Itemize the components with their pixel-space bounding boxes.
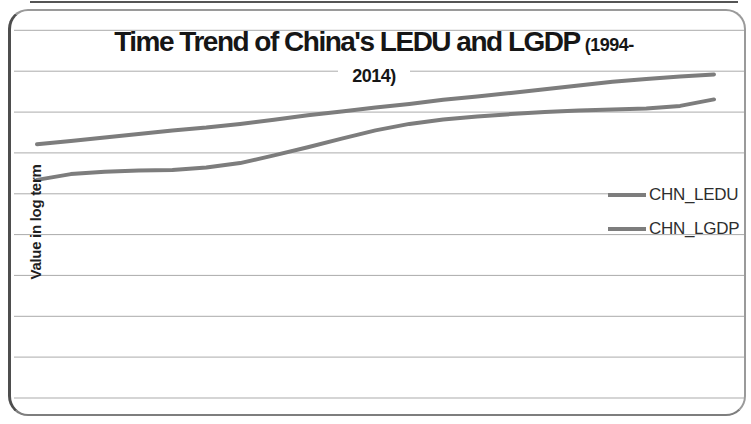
title-line-1: Time Trend of China's LEDU and LGDP(1994… — [13, 25, 735, 63]
y-axis-label: Value in log term — [27, 147, 47, 297]
title-line-2: 2014) — [13, 64, 735, 89]
legend-item-label: CHN_LEDU — [649, 185, 738, 205]
legend-item-chn-lgdp: CHN_LGDP — [608, 219, 748, 239]
legend-line-icon — [608, 227, 646, 231]
title-year-range-open: (1994- — [585, 35, 634, 55]
legend-item-label: CHN_LGDP — [649, 219, 739, 239]
figure-root: Time Trend of China's LEDU and LGDP(1994… — [0, 0, 751, 424]
chart-title: Time Trend of China's LEDU and LGDP(1994… — [13, 25, 735, 89]
legend-line-icon — [608, 193, 646, 197]
title-main-text: Time Trend of China's LEDU and LGDP — [114, 26, 579, 57]
legend: CHN_LEDU CHN_LGDP — [608, 185, 748, 239]
legend-item-chn-ledu: CHN_LEDU — [608, 185, 748, 205]
title-year-range-close: 2014) — [338, 64, 410, 88]
